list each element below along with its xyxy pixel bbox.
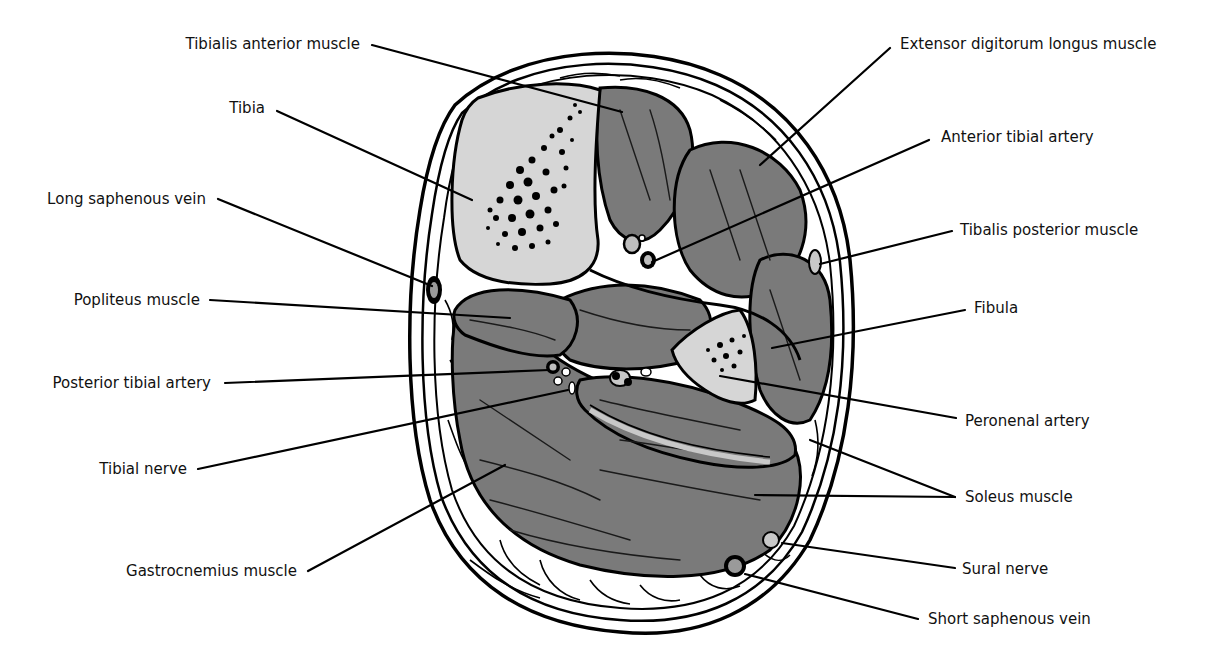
label-tibial-nerve: Tibial nerve: [98, 460, 187, 478]
label-posterior-tibial-artery: Posterior tibial artery: [53, 374, 212, 392]
label-tibia: Tibia: [228, 99, 265, 117]
label-anterior-tibial-artery: Anterior tibial artery: [941, 128, 1094, 146]
label-fibula: Fibula: [974, 299, 1018, 317]
leader-line-extensor-digitorum-longus: [760, 48, 890, 165]
label-gastrocnemius: Gastrocnemius muscle: [126, 562, 297, 580]
leader-line-long-saphenous-vein: [218, 199, 432, 286]
label-tibialis-posterior: Tibalis posterior muscle: [959, 221, 1138, 239]
label-sural-nerve: Sural nerve: [962, 560, 1048, 578]
label-long-saphenous-vein: Long saphenous vein: [47, 190, 206, 208]
label-tibialis-anterior: Tibialis anterior muscle: [185, 35, 361, 53]
leader-line-tibialis-posterior: [820, 231, 952, 264]
long-saphenous-vein-shape: [426, 276, 442, 304]
lateral-vessel: [809, 250, 821, 274]
leader-line-short-saphenous-vein: [745, 574, 918, 619]
label-extensor-digitorum-longus: Extensor digitorum longus muscle: [900, 35, 1156, 53]
label-popliteus: Popliteus muscle: [74, 291, 200, 309]
leader-line-sural-nerve: [782, 543, 955, 568]
label-short-saphenous-vein: Short saphenous vein: [928, 610, 1091, 628]
label-soleus: Soleus muscle: [965, 488, 1073, 506]
label-peroneal-artery: Peronenal artery: [965, 412, 1090, 430]
sural-nerve-shape: [763, 532, 779, 548]
short-saphenous-vein-shape: [724, 555, 746, 577]
leg-cross-section-diagram: Tibialis anterior muscleTibiaLong saphen…: [0, 0, 1210, 657]
